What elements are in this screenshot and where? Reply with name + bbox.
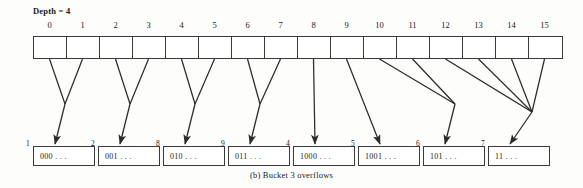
directory-cell-7[interactable] <box>265 37 298 58</box>
bucket-box-7[interactable]: 11 . . . <box>488 146 550 166</box>
bucket-box-6[interactable]: 101 . . . <box>423 146 485 166</box>
directory-index-12: 12 <box>429 20 462 31</box>
directory-index-13: 13 <box>462 20 495 31</box>
pointer-3-leg-0 <box>248 59 261 104</box>
directory-index-0: 0 <box>33 20 66 31</box>
bucket-number-1: 1 <box>26 139 30 148</box>
directory-cell-10[interactable] <box>364 37 397 58</box>
directory-cell-11[interactable] <box>397 37 430 58</box>
bucket-box-2[interactable]: 001 . . . <box>98 146 160 166</box>
directory-index-6: 6 <box>231 20 264 31</box>
pointer-2-leg-0 <box>182 59 196 104</box>
extendible-hashing-figure: Depth = 4 0123456789101112131415 1000 . … <box>0 0 583 188</box>
pointer-7-leg-3 <box>532 59 545 112</box>
directory-cell-0[interactable] <box>34 37 67 58</box>
directory-cell-5[interactable] <box>199 37 232 58</box>
pointer-3-leg-1 <box>260 59 281 104</box>
directory-cell-2[interactable] <box>100 37 133 58</box>
pointer-0-leg-0 <box>50 59 66 104</box>
bucket-box-5[interactable]: 1001 . . . <box>358 146 420 166</box>
directory-cell-15[interactable] <box>529 37 562 58</box>
pointer-3-arrow <box>250 104 260 144</box>
directory-array <box>33 36 563 59</box>
pointer-2-leg-1 <box>195 59 215 104</box>
directory-cell-13[interactable] <box>463 37 496 58</box>
figure-caption: (b) Bucket 3 overflows <box>0 170 583 180</box>
pointer-1-arrow <box>120 104 130 144</box>
directory-index-7: 7 <box>264 20 297 31</box>
directory-cell-1[interactable] <box>67 37 100 58</box>
bucket-number-2: 2 <box>91 139 95 148</box>
pointer-1-leg-1 <box>130 59 149 104</box>
bucket-box-4[interactable]: 1000 . . . <box>293 146 355 166</box>
bucket-box-1[interactable]: 000 . . . <box>33 146 95 166</box>
depth-label: Depth = 4 <box>33 6 70 16</box>
directory-index-14: 14 <box>495 20 528 31</box>
directory-index-10: 10 <box>363 20 396 31</box>
pointer-7-arrow <box>510 112 532 144</box>
pointer-5-arrow <box>347 59 381 144</box>
directory-index-4: 4 <box>165 20 198 31</box>
directory-index-8: 8 <box>297 20 330 31</box>
pointer-6-leg-1 <box>413 59 456 104</box>
bucket-number-4: 4 <box>286 139 290 148</box>
pointer-7-leg-2 <box>512 59 533 112</box>
directory-cell-12[interactable] <box>430 37 463 58</box>
directory-cell-9[interactable] <box>331 37 364 58</box>
bucket-number-6: 6 <box>416 139 420 148</box>
directory-index-9: 9 <box>330 20 363 31</box>
bucket-number-9: 9 <box>221 139 225 148</box>
pointer-6-arrow <box>445 104 455 144</box>
bucket-number-8: 8 <box>156 139 160 148</box>
directory-cell-3[interactable] <box>133 37 166 58</box>
pointer-4-arrow <box>314 59 316 144</box>
pointer-2-arrow <box>185 104 195 144</box>
pointer-0-leg-1 <box>65 59 83 104</box>
bucket-number-5: 5 <box>351 139 355 148</box>
pointer-7-leg-0 <box>446 59 533 112</box>
pointer-1-leg-0 <box>116 59 131 104</box>
directory-index-1: 1 <box>66 20 99 31</box>
directory-cell-14[interactable] <box>496 37 529 58</box>
directory-index-11: 11 <box>396 20 429 31</box>
directory-index-5: 5 <box>198 20 231 31</box>
directory-cell-6[interactable] <box>232 37 265 58</box>
pointer-6-leg-0 <box>380 59 456 104</box>
directory-index-3: 3 <box>132 20 165 31</box>
bucket-box-9[interactable]: 011 . . . <box>228 146 290 166</box>
directory-cell-4[interactable] <box>166 37 199 58</box>
directory-index-15: 15 <box>528 20 561 31</box>
bucket-box-8[interactable]: 010 . . . <box>163 146 225 166</box>
bucket-number-7: 7 <box>481 139 485 148</box>
directory-index-2: 2 <box>99 20 132 31</box>
pointer-0-arrow <box>55 104 65 144</box>
pointer-7-leg-1 <box>479 59 533 112</box>
directory-cell-8[interactable] <box>298 37 331 58</box>
